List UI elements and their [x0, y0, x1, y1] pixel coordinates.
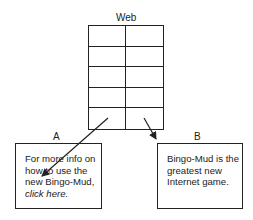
arrow-to-page-a: [42, 118, 108, 176]
arrows-layer: [0, 0, 253, 220]
arrow-to-page-b: [144, 118, 156, 139]
